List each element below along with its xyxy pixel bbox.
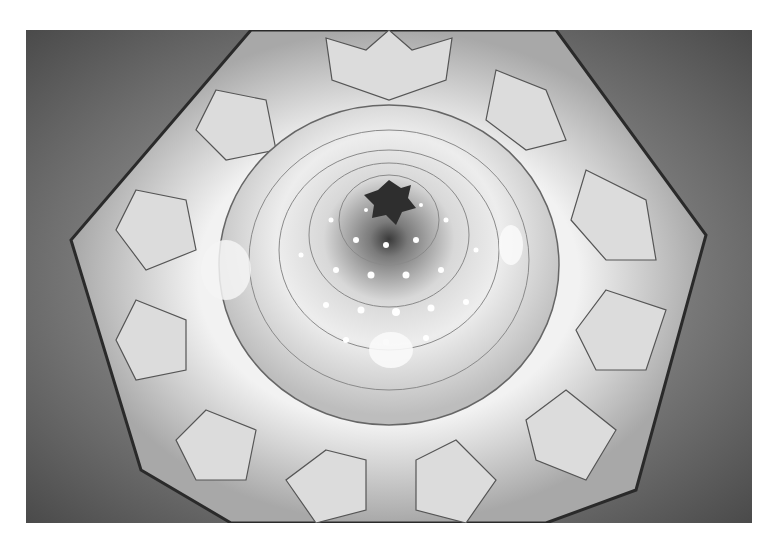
dome-photograph bbox=[26, 30, 752, 523]
dome-illustration bbox=[26, 30, 752, 523]
